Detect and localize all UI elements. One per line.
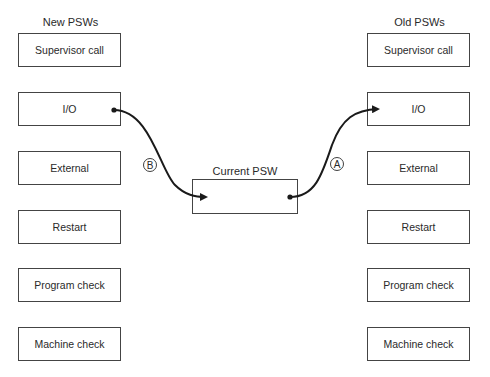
new-psw-supervisor-call: Supervisor call [18, 33, 121, 67]
arrow-a-label: A [334, 159, 341, 170]
old-psw-external: External [367, 151, 470, 185]
current-psw-title: Current PSW [192, 165, 298, 177]
new-psw-restart: Restart [18, 210, 121, 244]
old-psw-machine-check: Machine check [367, 327, 470, 361]
new-psw-program-check: Program check [18, 268, 121, 302]
arrow-b-marker: B [144, 159, 157, 172]
arrow-a [287, 109, 378, 200]
old-psw-restart: Restart [367, 210, 470, 244]
arrow-a-path [290, 109, 378, 197]
arrow-a-marker: A [331, 158, 344, 171]
old-psws-title: Old PSWs [367, 16, 472, 28]
arrow-b-label: B [147, 160, 154, 171]
new-psw-external: External [18, 151, 121, 185]
new-psws-title: New PSWs [18, 16, 123, 28]
new-psw-machine-check: Machine check [18, 327, 121, 361]
old-psw-supervisor-call: Supervisor call [367, 33, 470, 67]
old-psw-io: I/O [367, 92, 470, 126]
old-psw-program-check: Program check [367, 268, 470, 302]
current-psw-box [192, 179, 298, 214]
new-psw-io: I/O [18, 92, 121, 126]
